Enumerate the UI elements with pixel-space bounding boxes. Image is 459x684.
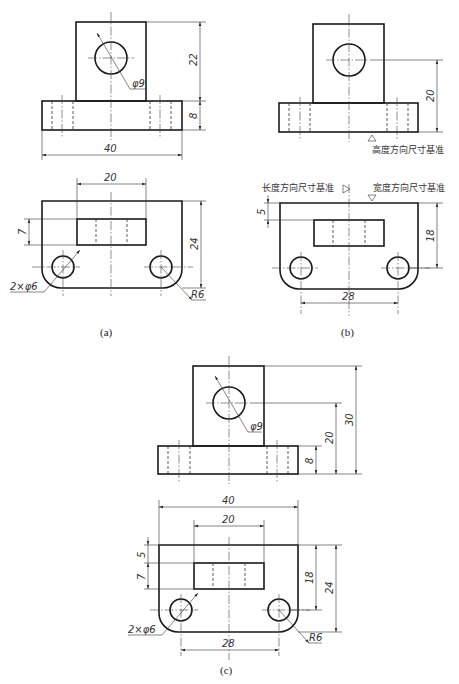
engineering-drawing: φ9 22 8 40 [0,0,459,684]
dim-7: 7 [136,573,147,580]
height-datum-label: 高度方向尺寸基准 [372,144,444,155]
figure-a: φ9 22 8 40 [10,12,206,339]
dim-r6: R6 [191,289,204,300]
dim-20: 20 [425,89,436,102]
figure-a-front-view: φ9 22 8 40 [42,12,206,160]
figure-a-top-view: 20 7 24 2×φ6 R6 [10,172,206,300]
dim-28: 28 [222,638,235,649]
dim-22: 22 [188,53,199,66]
length-datum-label: 长度方向尺寸基准 [262,182,334,193]
dim-2x-phi6: 2×φ6 [128,624,156,635]
caption-b: (b) [341,326,354,339]
figure-b: 20 高度方向尺寸基准 长度方向尺寸基准 宽度方向尺寸基准 [256,14,445,339]
dim-20: 20 [104,172,117,183]
dim-28: 28 [342,291,355,302]
dim-18: 18 [425,229,436,242]
dim-24: 24 [189,237,200,250]
dim-20: 20 [324,431,335,444]
dim-40: 40 [222,495,235,506]
dim-30: 30 [344,413,355,426]
caption-c: (c) [220,664,233,677]
width-datum-label: 宽度方向尺寸基准 [373,182,445,193]
figure-c-front-view: φ9 8 20 30 [158,356,362,484]
figure-b-front-view: 20 高度方向尺寸基准 [279,14,444,155]
figure-b-top-view: 长度方向尺寸基准 宽度方向尺寸基准 5 18 28 [256,182,445,316]
dim-5: 5 [256,209,267,215]
figure-c: φ9 8 20 30 [128,356,362,677]
dim-r6: R6 [309,632,322,643]
dim-phi9: φ9 [250,421,263,432]
dim-8: 8 [188,113,199,119]
dim-40: 40 [104,143,117,154]
width-datum-triangle-icon [368,195,376,201]
height-datum-triangle-icon [368,135,376,141]
dim-24: 24 [324,581,335,594]
dim-8: 8 [304,458,315,464]
dim-2x-phi6: 2×φ6 [10,281,38,292]
dim-phi9: φ9 [132,78,145,89]
dim-18: 18 [304,571,315,584]
dim-7: 7 [17,228,28,235]
dim-20-slot: 20 [222,514,235,525]
dim-5: 5 [136,552,147,558]
caption-a: (a) [100,326,113,339]
figure-c-top-view: 40 20 5 7 18 24 2 [128,495,342,660]
